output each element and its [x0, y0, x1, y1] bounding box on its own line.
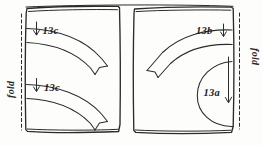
label-13b: 13b [196, 25, 212, 36]
arrow-13a-icon [225, 57, 231, 103]
band-13c-top [27, 29, 108, 75]
label-13c-bottom: 13c [44, 82, 60, 93]
pattern-sketch-figure: 13c 13c 13b 13a fold fold [0, 0, 263, 146]
band-13c-bottom [27, 85, 108, 131]
label-13a: 13a [204, 87, 220, 98]
band-13b [147, 30, 232, 78]
sketch-canvas: 13c 13c 13b 13a fold fold [0, 0, 263, 146]
right-panel [133, 7, 234, 133]
fold-label-right: fold [250, 48, 261, 66]
left-panel [25, 6, 120, 132]
fold-label-left: fold [5, 80, 16, 98]
label-13c-top: 13c [43, 25, 59, 36]
